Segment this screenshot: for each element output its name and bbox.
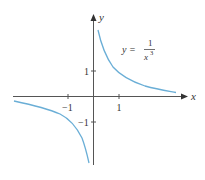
function-label-lhs: y = (121, 44, 136, 55)
function-label-denominator: x (143, 52, 148, 62)
x-tick-label-1: 1 (117, 102, 122, 113)
x-axis-label: x (190, 90, 196, 102)
y-tick-label-neg1: −1 (78, 117, 89, 128)
function-label-numerator: 1 (148, 38, 153, 48)
y-axis-label: y (98, 11, 104, 23)
curve-negative-branch (14, 101, 89, 163)
y-tick-label-1: 1 (84, 66, 89, 77)
x-tick-label-neg1: −1 (62, 102, 73, 113)
function-label-exponent: 3 (150, 49, 153, 56)
graph-plot: x y −1 1 1 −1 y = 1 x 3 (0, 0, 205, 180)
curve-positive-branch (98, 30, 176, 93)
function-label: y = 1 x 3 (121, 38, 155, 62)
y-axis-arrow-icon (91, 14, 97, 21)
x-axis-arrow-icon (181, 94, 188, 100)
